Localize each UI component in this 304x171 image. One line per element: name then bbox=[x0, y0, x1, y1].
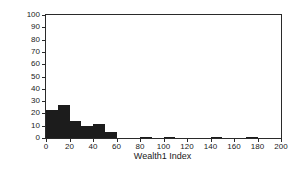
y-tick-mark bbox=[42, 40, 46, 41]
x-tick-label: 0 bbox=[44, 143, 48, 151]
y-tick-mark bbox=[42, 126, 46, 127]
y-tick-label: 70 bbox=[31, 48, 40, 56]
y-tick-label: 60 bbox=[31, 60, 40, 68]
y-tick-label: 50 bbox=[31, 73, 40, 81]
histogram-figure: 0102030405060708090100 02040608010012014… bbox=[0, 0, 304, 171]
x-tick-label: 60 bbox=[112, 143, 121, 151]
y-tick-mark bbox=[42, 101, 46, 102]
x-tick-label: 40 bbox=[89, 143, 98, 151]
x-axis-title: Wealth1 Index bbox=[45, 152, 280, 161]
x-tick-label: 200 bbox=[274, 143, 287, 151]
y-tick-mark bbox=[42, 64, 46, 65]
x-tick-label: 120 bbox=[180, 143, 193, 151]
plot-frame: 0102030405060708090100 02040608010012014… bbox=[45, 14, 282, 139]
y-tick-mark bbox=[42, 15, 46, 16]
x-tick-label: 160 bbox=[227, 143, 240, 151]
y-tick-mark bbox=[42, 52, 46, 53]
y-tick-label: 40 bbox=[31, 85, 40, 93]
x-tick-label: 180 bbox=[251, 143, 264, 151]
y-axis-title: Count bbox=[2, 0, 13, 36]
x-tick-label: 80 bbox=[136, 143, 145, 151]
y-tick-label: 0 bbox=[36, 134, 40, 142]
y-tick-label: 10 bbox=[31, 122, 40, 130]
x-tick-label: 100 bbox=[157, 143, 170, 151]
y-tick-mark bbox=[42, 113, 46, 114]
y-tick-label: 100 bbox=[27, 11, 40, 19]
y-tick-label: 90 bbox=[31, 23, 40, 31]
y-tick-label: 20 bbox=[31, 109, 40, 117]
y-tick-label: 30 bbox=[31, 97, 40, 105]
y-tick-mark bbox=[42, 77, 46, 78]
y-axis-ticks: 0102030405060708090100 bbox=[46, 15, 281, 138]
x-tick-label: 140 bbox=[204, 143, 217, 151]
y-tick-mark bbox=[42, 89, 46, 90]
y-tick-label: 80 bbox=[31, 36, 40, 44]
x-tick-label: 20 bbox=[65, 143, 74, 151]
y-tick-mark bbox=[42, 27, 46, 28]
